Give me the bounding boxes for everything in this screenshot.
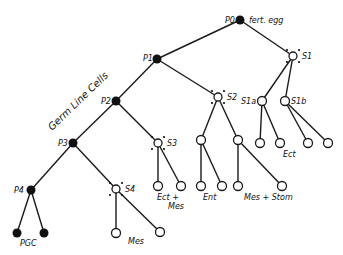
label-p3: P3: [58, 139, 68, 148]
label-s4: S4: [125, 185, 135, 194]
label-s3-mes: Mes: [168, 202, 184, 211]
label-s2: S2: [227, 93, 237, 102]
label-s4-mes: Mes: [128, 237, 144, 246]
label-s3-ect: Ect +: [157, 193, 179, 202]
label-pgc: PGC: [20, 239, 37, 248]
label-s1a: S1a: [241, 97, 256, 106]
node-p1: [153, 55, 162, 64]
label-p4: P4: [14, 186, 24, 195]
node-pgc-left: [13, 229, 22, 238]
label-s1-ect: Ect: [283, 150, 296, 159]
node-p3: [69, 139, 78, 148]
label-s1b: S1b: [291, 97, 306, 106]
label-s2-ent: Ent: [203, 193, 217, 202]
label-s2-mes-stom: Mes + Stom: [244, 193, 293, 202]
node-p0: [236, 16, 245, 25]
label-s1: S1: [302, 52, 312, 61]
node-p2: [112, 97, 121, 106]
label-fert-egg: fert. egg: [249, 16, 283, 25]
label-p1: P1: [143, 54, 153, 63]
node-pgc-right: [40, 229, 49, 238]
label-p2: P2: [101, 97, 111, 106]
lineage-diagram: P0 fert. egg P1 P2 P3 P4 S1 S2 S3 S4 S1a…: [0, 0, 343, 255]
node-p4: [27, 186, 36, 195]
node-s1a: [258, 97, 267, 106]
node-s2: [211, 90, 225, 104]
node-s1: [286, 49, 300, 63]
node-s1b: [281, 97, 290, 106]
label-p0: P0: [225, 16, 235, 25]
label-s3: S3: [167, 139, 177, 148]
